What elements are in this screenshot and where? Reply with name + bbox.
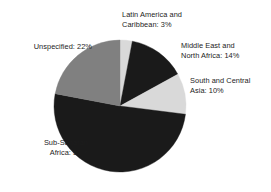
pie-chart-graphic bbox=[0, 0, 271, 192]
pie-slices-group bbox=[54, 40, 186, 172]
pie-chart-figure: Latin America and Caribbean: 3% Middle E… bbox=[0, 0, 271, 192]
